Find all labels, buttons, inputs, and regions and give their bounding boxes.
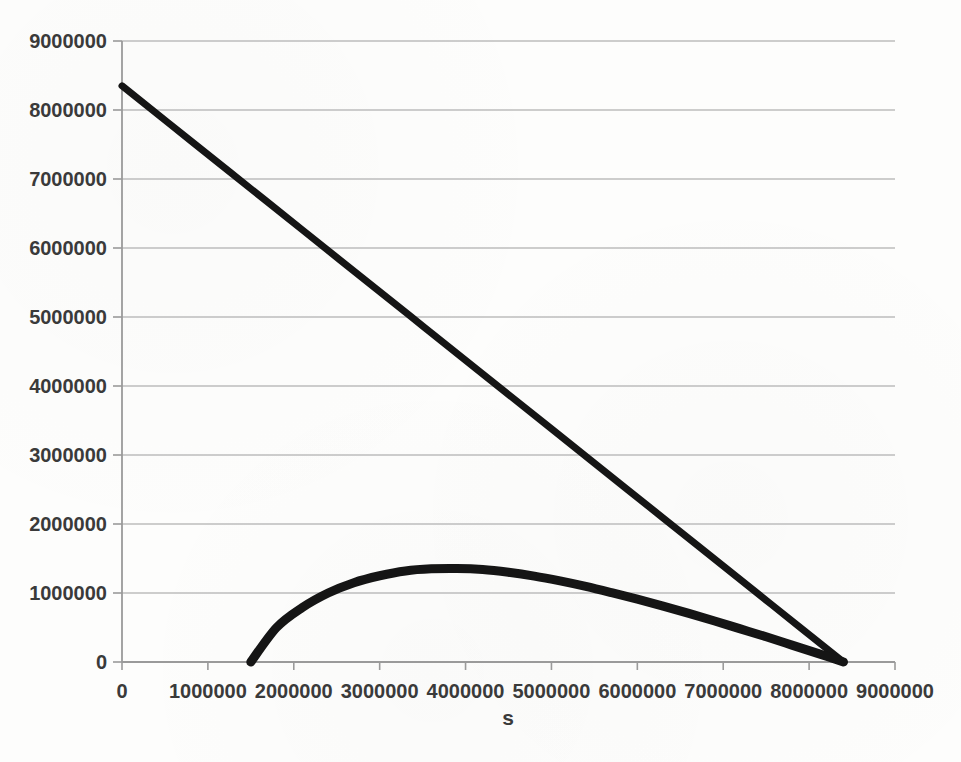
plot-area bbox=[0, 0, 961, 762]
y-tick-label: 8000000 bbox=[29, 99, 107, 122]
x-tick-label: 1000000 bbox=[169, 680, 247, 703]
x-tick-label: 3000000 bbox=[341, 680, 419, 703]
y-tick-label: 4000000 bbox=[29, 375, 107, 398]
y-tick-label: 6000000 bbox=[29, 237, 107, 260]
y-tick-label: 3000000 bbox=[29, 444, 107, 467]
gridlines-group bbox=[122, 41, 895, 593]
data-series-group bbox=[122, 86, 843, 662]
x-tick-label: 2000000 bbox=[255, 680, 333, 703]
x-tick-marks-group bbox=[122, 662, 895, 670]
x-tick-label: 8000000 bbox=[770, 680, 848, 703]
x-tick-label: 0 bbox=[116, 680, 127, 703]
y-tick-label: 2000000 bbox=[29, 513, 107, 536]
series-line-descending-line bbox=[122, 86, 843, 662]
y-tick-label: 7000000 bbox=[29, 168, 107, 191]
x-tick-label: 4000000 bbox=[427, 680, 505, 703]
y-tick-marks-group bbox=[113, 41, 122, 662]
y-tick-label: 9000000 bbox=[29, 30, 107, 53]
y-tick-label: 0 bbox=[96, 651, 107, 674]
x-tick-label: 6000000 bbox=[598, 680, 676, 703]
x-tick-label: 9000000 bbox=[856, 680, 934, 703]
y-tick-label: 5000000 bbox=[29, 306, 107, 329]
series-line-concave-arc bbox=[251, 568, 844, 662]
chart-container: 0100000020000003000000400000050000006000… bbox=[0, 0, 961, 762]
x-tick-label: 5000000 bbox=[513, 680, 591, 703]
y-tick-label: 1000000 bbox=[29, 582, 107, 605]
x-axis-title: s bbox=[502, 706, 514, 730]
x-tick-label: 7000000 bbox=[684, 680, 762, 703]
